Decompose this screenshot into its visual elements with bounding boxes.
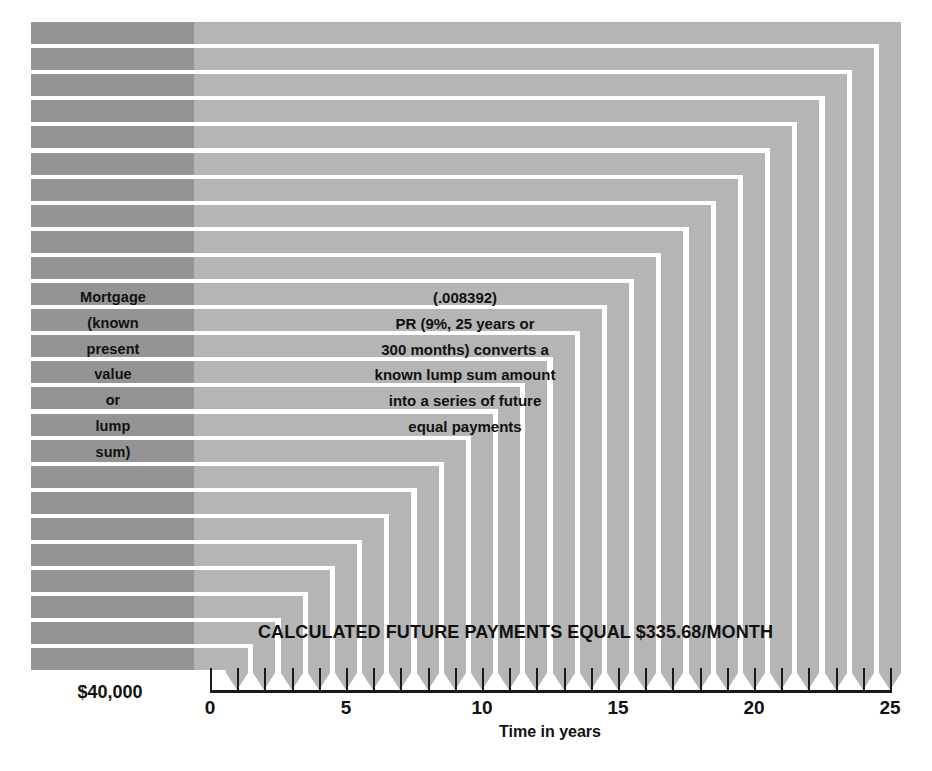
mortgage-block-segment — [31, 257, 194, 279]
payment-bar — [31, 231, 683, 253]
payment-stripe — [335, 544, 357, 673]
axis-tick — [836, 668, 838, 690]
mortgage-block-segment — [31, 205, 194, 227]
payment-stripe — [852, 48, 874, 673]
payment-bar — [31, 544, 357, 566]
axis-tick — [890, 668, 892, 690]
mortgage-block-segment — [31, 74, 194, 96]
axis-tick-label: 5 — [316, 697, 376, 719]
payment-stripe — [797, 100, 819, 673]
axis-title-label: Time in years — [450, 723, 650, 741]
axis-tick — [482, 668, 484, 690]
pr-annotation-line: known lump sum amount — [265, 362, 665, 388]
present-value-amount-label: $40,000 — [25, 682, 195, 703]
payment-bar — [31, 466, 439, 488]
payment-bar — [31, 74, 847, 96]
mortgage-block-segment — [31, 518, 194, 540]
pr-annotation-line: into a series of future — [265, 388, 665, 414]
axis-tick — [373, 668, 375, 690]
mortgage-block-segment — [31, 153, 194, 175]
payment-bar — [31, 257, 656, 279]
payment-stripe — [825, 74, 847, 673]
axis-tick — [509, 668, 511, 690]
axis-tick — [591, 668, 593, 690]
mortgage-block-label: Mortgage(knownpresentvalueorlumpsum) — [31, 285, 195, 466]
mortgage-block-segment — [31, 570, 194, 592]
mortgage-block-line: present — [31, 337, 195, 363]
axis-tick — [264, 668, 266, 690]
axis-tick — [237, 668, 239, 690]
axis-tick — [754, 668, 756, 690]
mortgage-block-segment — [31, 544, 194, 566]
mortgage-block-line: lump — [31, 414, 195, 440]
pr-annotation-line: 300 months) converts a — [265, 337, 665, 363]
calculated-payments-caption: CALCULATED FUTURE PAYMENTS EQUAL $335.68… — [258, 622, 773, 643]
mortgage-block-segment — [31, 466, 194, 488]
payment-stripe — [389, 492, 411, 673]
pr-factor-annotation: (.008392)PR (9%, 25 years or300 months) … — [265, 285, 665, 440]
payment-bar — [31, 100, 819, 122]
axis-tick-label: 0 — [180, 697, 240, 719]
mortgage-block-segment — [31, 179, 194, 201]
mortgage-block-line: value — [31, 362, 195, 388]
axis-tick — [781, 668, 783, 690]
axis-tick — [863, 668, 865, 690]
axis-tick — [727, 668, 729, 690]
mortgage-block-segment — [31, 231, 194, 253]
axis-tick — [564, 668, 566, 690]
payment-bar — [31, 153, 765, 175]
mortgage-block-line: or — [31, 388, 195, 414]
payment-bar — [31, 648, 248, 670]
mortgage-block-segment — [31, 492, 194, 514]
mortgage-block-segment — [31, 648, 194, 670]
mortgage-block-segment — [31, 22, 194, 44]
axis-tick-label: 15 — [588, 697, 648, 719]
pr-annotation-line: PR (9%, 25 years or — [265, 311, 665, 337]
mortgage-block-segment — [31, 100, 194, 122]
axis-tick — [210, 668, 212, 690]
payment-stripe — [879, 22, 901, 673]
pr-annotation-line: (.008392) — [265, 285, 665, 311]
payment-bar — [31, 48, 874, 70]
mortgage-block-segment — [31, 48, 194, 70]
axis-tick — [808, 668, 810, 690]
axis-tick-label: 10 — [452, 697, 512, 719]
payment-stripe — [689, 205, 711, 673]
axis-tick — [700, 668, 702, 690]
axis-tick — [319, 668, 321, 690]
payment-stripe — [770, 126, 792, 673]
axis-tick — [292, 668, 294, 690]
axis-tick-label: 20 — [724, 697, 784, 719]
mortgage-block-line: sum) — [31, 440, 195, 466]
mortgage-block-line: (known — [31, 311, 195, 337]
axis-tick — [618, 668, 620, 690]
axis-baseline — [210, 690, 892, 693]
payment-bar — [31, 22, 901, 44]
axis-tick — [400, 668, 402, 690]
payment-stripe — [716, 179, 738, 673]
axis-tick — [672, 668, 674, 690]
payment-bar — [31, 126, 792, 148]
axis-tick-label: 25 — [860, 697, 920, 719]
mortgage-block-line: Mortgage — [31, 285, 195, 311]
mortgage-block-segment — [31, 126, 194, 148]
axis-tick — [346, 668, 348, 690]
pr-annotation-line: equal payments — [265, 414, 665, 440]
cashflow-diagram: Mortgage(knownpresentvalueorlumpsum) (.0… — [0, 0, 932, 771]
mortgage-block-segment — [31, 596, 194, 618]
payment-bar — [31, 622, 275, 644]
axis-tick — [428, 668, 430, 690]
payment-bar — [31, 518, 384, 540]
payment-bar — [31, 596, 303, 618]
axis-tick — [645, 668, 647, 690]
axis-tick — [536, 668, 538, 690]
payment-bar — [31, 570, 330, 592]
payment-bar — [31, 205, 711, 227]
payment-stripe — [362, 518, 384, 673]
payment-bar — [31, 492, 411, 514]
payment-bar — [31, 179, 738, 201]
payment-stripe — [743, 153, 765, 674]
mortgage-block-segment — [31, 622, 194, 644]
axis-tick — [455, 668, 457, 690]
